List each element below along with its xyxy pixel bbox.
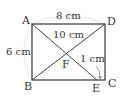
label-e: E — [92, 82, 100, 95]
label-c: C — [108, 77, 116, 90]
measure-ad: 8 cm — [56, 10, 81, 21]
label-a: A — [21, 14, 31, 27]
geometry-diagram: A D B C E F 8 cm 6 cm 10 cm 1 cm — [0, 0, 122, 107]
arrow-ec — [96, 66, 100, 78]
measure-ec: 1 cm — [80, 53, 105, 64]
label-b: B — [24, 80, 32, 93]
label-d: D — [107, 15, 116, 28]
label-f: F — [62, 58, 70, 71]
measure-ab: 6 cm — [6, 46, 31, 57]
measure-bd: 10 cm — [53, 29, 85, 40]
